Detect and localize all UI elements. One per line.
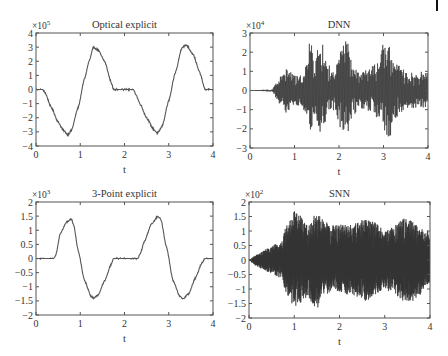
x-tick-label: 4 (426, 151, 431, 162)
y-tick-label: 1.5 (234, 211, 247, 222)
y-tick-label: −0.5 (15, 267, 33, 278)
y-tick-label: 0.5 (21, 239, 34, 250)
x-tick-label: 0 (247, 321, 252, 332)
y-tick-label: 1 (28, 225, 33, 236)
subplot-title: SNN (329, 188, 350, 199)
y-tick-label: −1.5 (228, 298, 246, 309)
x-tick-label: 1 (78, 149, 83, 160)
y-tick-label: 0 (28, 253, 33, 264)
y-tick-label: 1.5 (21, 211, 34, 222)
y-tick-label: 0.5 (234, 240, 247, 251)
y-tick-label: −2 (235, 313, 246, 324)
x-tick-label: 1 (78, 318, 83, 329)
subplot-title: DNN (328, 19, 351, 30)
x-tick-label: 0 (34, 149, 39, 160)
subplot-snn: 01234−2−1.5−1−0.500.511.52SNN×102t (228, 188, 433, 347)
data-line-dnn (250, 42, 428, 137)
x-tick-label: 2 (337, 321, 342, 332)
exponent-label: ×104 (246, 19, 265, 31)
y-tick-label: −0.5 (228, 269, 246, 280)
y-tick-label: −2 (236, 123, 247, 134)
x-tick-label: 3 (166, 318, 171, 329)
exponent-label: ×105 (32, 19, 51, 31)
exponent-label: ×103 (32, 188, 51, 200)
series-optical (36, 45, 213, 135)
y-tick-label: 2 (242, 47, 247, 58)
y-tick-label: −1 (236, 104, 247, 115)
x-tick-label: 1 (292, 321, 297, 332)
y-tick-label: −1 (22, 281, 33, 292)
x-tick-label: 3 (382, 321, 387, 332)
x-tick-label: 1 (292, 151, 297, 162)
y-tick-label: 1 (242, 66, 247, 77)
x-tick-label: 0 (34, 318, 39, 329)
y-tick-label: 0 (242, 85, 247, 96)
x-axis-label: t (123, 164, 126, 175)
subplot-dnn: 01234−3−2−10123DNN×104t (236, 19, 430, 177)
y-tick-label: −1.5 (15, 295, 33, 306)
subplot-optical: 01234−4−3−2−101234Optical explicit×105t (22, 19, 215, 175)
x-tick-label: 2 (122, 318, 127, 329)
exponent-power: 4 (261, 19, 265, 27)
x-tick-label: 0 (248, 151, 253, 162)
exponent-power: 5 (47, 19, 51, 27)
x-tick-label: 3 (166, 149, 171, 160)
y-tick-label: −2 (22, 112, 33, 123)
y-tick-label: −1 (22, 98, 33, 109)
y-tick-label: −1 (235, 284, 246, 295)
series-three_point (36, 216, 213, 298)
y-tick-label: 2 (28, 56, 33, 67)
x-tick-label: 2 (337, 151, 342, 162)
series-dnn (250, 42, 428, 137)
data-line-optical (36, 45, 213, 135)
x-tick-label: 4 (211, 318, 216, 329)
series-snn (249, 211, 430, 307)
subplot-title: Optical explicit (92, 19, 157, 30)
data-line-three_point (36, 216, 213, 298)
y-tick-label: −3 (22, 126, 33, 137)
x-axis-label: t (123, 333, 126, 344)
exponent-power: 2 (260, 188, 264, 196)
subplot-three_point: 01234−2−1.5−1−0.500.511.523-Point explic… (15, 188, 216, 344)
y-tick-label: −2 (22, 310, 33, 321)
y-tick-label: −4 (22, 141, 33, 152)
data-line-snn (249, 211, 430, 307)
x-tick-label: 2 (122, 149, 127, 160)
exponent-label: ×102 (245, 188, 264, 200)
x-tick-label: 3 (381, 151, 386, 162)
exponent-power: 3 (47, 188, 51, 196)
y-tick-label: 1 (241, 226, 246, 237)
y-tick-label: −3 (236, 143, 247, 154)
x-axis-label: t (338, 336, 341, 347)
y-tick-label: 1 (28, 70, 33, 81)
subplot-title: 3-Point explicit (92, 188, 157, 199)
figure: 01234−4−3−2−101234Optical explicit×105t0… (0, 0, 448, 356)
x-tick-label: 4 (211, 149, 216, 160)
x-axis-label: t (338, 166, 341, 177)
y-tick-label: 0 (28, 84, 33, 95)
y-tick-label: 3 (28, 42, 33, 53)
x-tick-label: 4 (428, 321, 433, 332)
y-tick-label: 0 (241, 255, 246, 266)
